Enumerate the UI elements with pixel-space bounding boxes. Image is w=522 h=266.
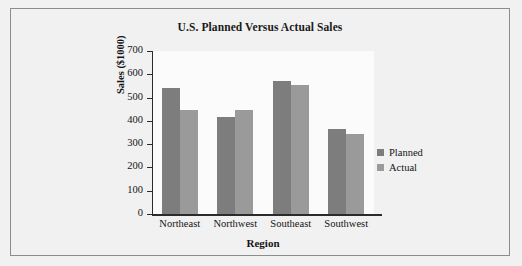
bar-northwest-actual — [235, 110, 253, 214]
y-tick-300: 300 — [147, 144, 152, 145]
y-tick-mark — [147, 191, 152, 192]
y-tick-label: 400 — [127, 114, 143, 125]
y-tick-label: 300 — [127, 137, 143, 148]
y-tick-700: 700 — [147, 51, 152, 52]
y-tick-label: 600 — [127, 67, 143, 78]
legend-swatch-actual-icon — [377, 164, 384, 171]
chart-legend: PlannedActual — [377, 145, 423, 175]
bar-southwest-actual — [346, 134, 364, 214]
legend-swatch-planned-icon — [377, 149, 384, 156]
legend-label: Planned — [389, 147, 423, 158]
chart-title: U.S. Planned Versus Actual Sales — [11, 21, 509, 33]
y-tick-mark — [147, 144, 152, 145]
legend-item-planned[interactable]: Planned — [377, 145, 423, 160]
y-tick-mark — [147, 51, 152, 52]
y-tick-label: 200 — [127, 160, 143, 171]
y-tick-mark — [147, 74, 152, 75]
chart-figure-frame: U.S. Planned Versus Actual Sales 0100200… — [10, 8, 510, 256]
y-axis-line — [152, 51, 153, 215]
bar-northwest-planned — [217, 117, 235, 214]
bar-southeast-actual — [291, 85, 309, 214]
y-tick-mark — [147, 167, 152, 168]
y-tick-label: 500 — [127, 91, 143, 102]
x-axis-line — [152, 214, 382, 216]
y-tick-label: 700 — [127, 44, 143, 55]
legend-label: Actual — [389, 162, 417, 173]
y-tick-mark — [147, 121, 152, 122]
y-tick-500: 500 — [147, 98, 152, 99]
legend-item-actual[interactable]: Actual — [377, 160, 423, 175]
y-tick-label: 0 — [138, 207, 143, 218]
bar-southwest-planned — [328, 129, 346, 214]
y-tick-mark — [147, 98, 152, 99]
x-tick-label-southwest: Southwest — [311, 218, 381, 229]
y-tick-100: 100 — [147, 191, 152, 192]
bar-northeast-planned — [162, 88, 180, 214]
y-tick-0: 0 — [147, 214, 152, 215]
y-tick-label: 100 — [127, 184, 143, 195]
y-tick-mark — [147, 214, 152, 215]
y-tick-200: 200 — [147, 167, 152, 168]
y-tick-600: 600 — [147, 74, 152, 75]
y-tick-400: 400 — [147, 121, 152, 122]
y-axis-title: Sales ($1000) — [115, 35, 126, 94]
x-axis-title: Region — [152, 237, 374, 249]
bar-northeast-actual — [180, 110, 198, 214]
bar-southeast-planned — [273, 81, 291, 214]
